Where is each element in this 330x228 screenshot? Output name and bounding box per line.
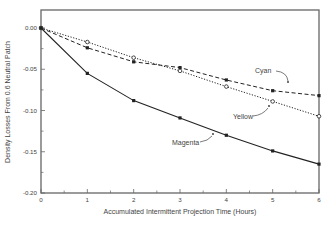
data-point-cyan <box>132 60 135 63</box>
data-point-magenta <box>39 26 42 29</box>
data-point-yellow <box>132 56 136 60</box>
y-tick-label: -0.05 <box>23 65 38 72</box>
data-point-magenta <box>178 116 181 119</box>
plot-border <box>41 10 319 193</box>
x-tick-label: 4 <box>225 196 229 203</box>
data-point-yellow <box>317 114 321 118</box>
data-point-yellow <box>271 100 275 104</box>
density-loss-chart: 01234560.00-0.05-0.10-0.15-0.20 CyanYell… <box>0 0 330 228</box>
data-point-cyan <box>86 46 89 49</box>
arrowhead-icon <box>212 133 214 135</box>
annotation-arrow-yellow <box>253 108 268 116</box>
annotation-arrow-cyan <box>276 71 288 81</box>
x-tick-label: 6 <box>317 196 321 203</box>
annotation-label-magenta: Magenta <box>172 139 199 147</box>
annotation-label-yellow: Yellow <box>233 113 254 120</box>
x-tick-label: 3 <box>178 196 182 203</box>
data-point-magenta <box>86 72 89 75</box>
data-point-magenta <box>225 134 228 137</box>
y-tick-label: 0.00 <box>25 24 38 31</box>
data-point-magenta <box>132 99 135 102</box>
x-tick-label: 0 <box>39 196 43 203</box>
x-axis-label: Accumulated Intermittent Projection Time… <box>104 208 257 216</box>
y-axis-label: Density Losses From 0.6 Neutral Patch <box>4 41 12 163</box>
annotation-arrow-magenta <box>200 136 212 142</box>
y-tick-label: -0.10 <box>23 107 38 114</box>
annotations: CyanYellowMagenta <box>172 67 289 147</box>
chart-svg: 01234560.00-0.05-0.10-0.15-0.20 CyanYell… <box>0 0 330 228</box>
data-point-yellow <box>86 40 90 44</box>
data-point-cyan <box>271 89 274 92</box>
data-point-magenta <box>271 149 274 152</box>
arrowhead-icon <box>268 105 270 107</box>
x-tick-label: 5 <box>271 196 275 203</box>
arrowhead-icon <box>287 81 289 83</box>
y-tick-label: -0.15 <box>23 148 38 155</box>
axis-ticks: 01234560.00-0.05-0.10-0.15-0.20 <box>23 24 321 203</box>
data-point-cyan <box>225 78 228 81</box>
x-tick-label: 2 <box>132 196 136 203</box>
series-line-cyan <box>41 28 319 96</box>
plot-frame <box>41 10 319 193</box>
data-point-yellow <box>178 69 182 73</box>
data-point-yellow <box>225 85 229 89</box>
y-tick-label: -0.20 <box>23 189 38 196</box>
x-tick-label: 1 <box>86 196 90 203</box>
data-point-cyan <box>317 94 320 97</box>
annotation-label-cyan: Cyan <box>255 67 271 75</box>
data-point-magenta <box>317 163 320 166</box>
